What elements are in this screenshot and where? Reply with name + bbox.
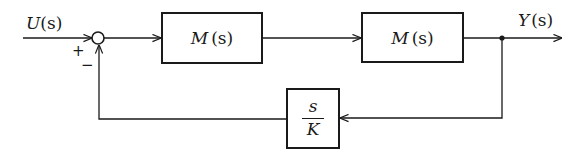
- feedback-denominator: K: [307, 121, 320, 139]
- input-argument: (s): [40, 13, 62, 33]
- output-label: Y(s): [518, 12, 553, 29]
- output-argument: (s): [531, 10, 553, 30]
- summing-junction: [92, 32, 104, 44]
- feedback-numerator: s: [309, 98, 318, 116]
- output-variable: Y: [518, 10, 529, 30]
- forward-block-1: M(s): [161, 12, 263, 64]
- block-1-argument: (s): [211, 28, 233, 48]
- block-2-variable: M: [391, 28, 408, 48]
- input-variable: U: [26, 13, 40, 33]
- block-diagram: U(s) + − M(s) M(s) Y(s) s K: [0, 0, 577, 163]
- block-1-variable: M: [191, 28, 208, 48]
- feedback-fraction: s K: [302, 98, 324, 139]
- feedback-block: s K: [286, 88, 340, 149]
- block-2-argument: (s): [412, 28, 434, 48]
- minus-sign: −: [81, 58, 94, 73]
- forward-block-2: M(s): [361, 12, 464, 63]
- input-label: U(s): [26, 15, 62, 32]
